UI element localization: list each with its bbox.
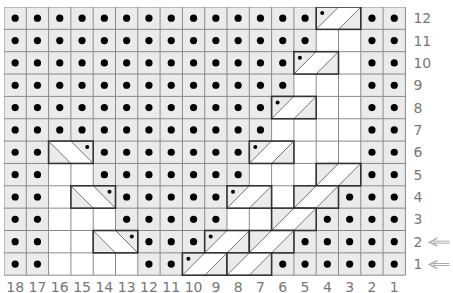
column-label: 14 — [95, 279, 113, 293]
purl-dot-icon — [101, 59, 108, 66]
knit-cell — [93, 208, 115, 230]
purl-dot-icon — [391, 260, 398, 267]
cable-dot-icon — [130, 235, 134, 239]
purl-dot-icon — [190, 37, 197, 44]
right-cross-cable — [249, 231, 294, 253]
purl-dot-icon — [123, 193, 130, 200]
purl-dot-icon — [145, 104, 152, 111]
purl-dot-icon — [212, 171, 219, 178]
row-label: 2 — [413, 234, 422, 250]
purl-dot-icon — [34, 260, 41, 267]
purl-dot-icon — [324, 260, 331, 267]
purl-dot-icon — [101, 149, 108, 156]
purl-dot-icon — [324, 238, 331, 245]
right-cross-cable — [272, 208, 317, 230]
purl-dot-icon — [391, 15, 398, 22]
purl-dot-icon — [391, 37, 398, 44]
purl-dot-icon — [168, 171, 175, 178]
purl-dot-icon — [168, 216, 175, 223]
purl-dot-icon — [368, 37, 375, 44]
knit-cell — [316, 119, 338, 141]
column-label: 3 — [345, 279, 354, 293]
column-label: 15 — [73, 279, 91, 293]
purl-dot-icon — [368, 82, 375, 89]
purl-dot-icon — [12, 260, 19, 267]
cable-dot-icon — [276, 100, 280, 104]
purl-dot-icon — [279, 260, 286, 267]
arrow-left-icon — [429, 261, 449, 269]
purl-dot-icon — [78, 37, 85, 44]
purl-dot-icon — [101, 82, 108, 89]
purl-dot-icon — [368, 171, 375, 178]
purl-dot-icon — [145, 260, 152, 267]
purl-dot-icon — [212, 104, 219, 111]
purl-dot-icon — [101, 37, 108, 44]
purl-dot-icon — [391, 59, 398, 66]
purl-dot-icon — [301, 260, 308, 267]
knit-cell — [316, 74, 338, 96]
cable-dot-icon — [231, 190, 235, 194]
purl-dot-icon — [12, 104, 19, 111]
purl-dot-icon — [368, 193, 375, 200]
purl-dot-icon — [168, 15, 175, 22]
knit-cell — [249, 163, 271, 185]
purl-dot-icon — [190, 126, 197, 133]
purl-dot-icon — [12, 82, 19, 89]
row-label: 8 — [413, 100, 422, 116]
purl-dot-icon — [212, 193, 219, 200]
purl-dot-icon — [56, 59, 63, 66]
purl-dot-icon — [368, 104, 375, 111]
purl-dot-icon — [235, 15, 242, 22]
knit-cell — [116, 253, 138, 275]
knit-cell — [294, 74, 316, 96]
purl-dot-icon — [257, 37, 264, 44]
purl-dot-icon — [257, 104, 264, 111]
purl-dot-icon — [34, 171, 41, 178]
purl-dot-icon — [235, 104, 242, 111]
cable-dot-icon — [320, 11, 324, 15]
purl-dot-icon — [34, 15, 41, 22]
purl-dot-icon — [368, 260, 375, 267]
right-cross-cable — [205, 231, 250, 253]
purl-dot-icon — [190, 238, 197, 245]
purl-dot-icon — [168, 126, 175, 133]
purl-dot-icon — [34, 59, 41, 66]
knit-cell — [339, 74, 361, 96]
purl-dot-icon — [145, 238, 152, 245]
knit-cell — [249, 208, 271, 230]
arrow-left-icon — [429, 238, 449, 246]
knit-cell — [339, 96, 361, 118]
purl-dot-icon — [168, 104, 175, 111]
knit-cell — [93, 253, 115, 275]
purl-dot-icon — [368, 126, 375, 133]
cable-dot-icon — [253, 145, 257, 149]
purl-dot-icon — [168, 149, 175, 156]
knit-cell — [49, 231, 71, 253]
purl-dot-icon — [368, 238, 375, 245]
purl-dot-icon — [123, 171, 130, 178]
column-label: 12 — [140, 279, 158, 293]
knit-cell — [316, 141, 338, 163]
purl-dot-icon — [12, 216, 19, 223]
purl-dot-icon — [368, 216, 375, 223]
purl-dot-icon — [391, 82, 398, 89]
purl-dot-icon — [346, 260, 353, 267]
purl-dot-icon — [346, 216, 353, 223]
purl-dot-icon — [391, 193, 398, 200]
purl-dot-icon — [12, 15, 19, 22]
knit-cell — [339, 141, 361, 163]
purl-dot-icon — [56, 104, 63, 111]
purl-dot-icon — [12, 37, 19, 44]
column-label: 18 — [6, 279, 24, 293]
purl-dot-icon — [391, 149, 398, 156]
purl-dot-icon — [235, 149, 242, 156]
knit-cell — [316, 96, 338, 118]
purl-dot-icon — [56, 126, 63, 133]
column-label: 16 — [51, 279, 69, 293]
purl-dot-icon — [101, 15, 108, 22]
row-label: 11 — [413, 33, 431, 49]
purl-dot-icon — [145, 216, 152, 223]
right-cross-cable — [227, 186, 272, 208]
right-cross-cable — [294, 52, 339, 74]
row-label: 5 — [413, 167, 422, 183]
